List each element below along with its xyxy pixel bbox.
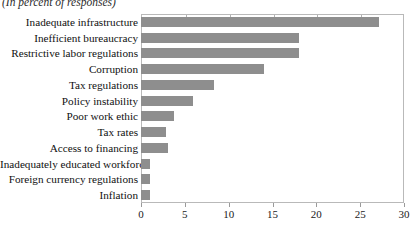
x-axis-tick-label: 0 [126, 208, 156, 221]
bar [141, 174, 150, 184]
bar [141, 80, 214, 90]
x-axis-tick-mark [141, 203, 142, 207]
bar [141, 111, 174, 121]
x-axis-tick-label: 25 [345, 208, 375, 221]
x-axis-tick-label: 15 [258, 208, 288, 221]
bar [141, 33, 299, 43]
x-axis-tick-mark [404, 203, 405, 207]
bar [141, 96, 193, 106]
bar [141, 127, 166, 137]
x-axis-tick-label: 5 [170, 208, 200, 221]
bar [141, 190, 150, 200]
x-axis-tick-mark [185, 203, 186, 207]
bar [141, 64, 264, 74]
x-axis-tick-mark [229, 203, 230, 207]
x-axis-tick-mark [316, 203, 317, 207]
x-axis-tick-label: 20 [301, 208, 331, 221]
x-axis-tick-label: 10 [214, 208, 244, 221]
x-axis-tick-mark [273, 203, 274, 207]
x-axis-tick-mark [360, 203, 361, 207]
bar [141, 159, 150, 169]
bar [141, 48, 299, 58]
x-axis-tick-label: 30 [389, 208, 414, 221]
bar [141, 143, 168, 153]
bar [141, 17, 379, 27]
